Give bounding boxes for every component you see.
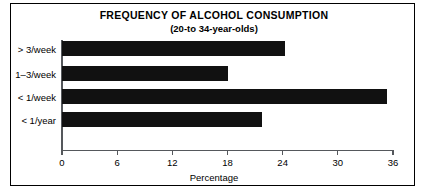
x-tick-label: 18 xyxy=(222,157,233,168)
bar-row: 1–3/week xyxy=(62,66,393,81)
x-tick xyxy=(117,150,118,155)
x-tick xyxy=(282,150,283,155)
bar xyxy=(62,66,228,81)
category-label: > 3/week xyxy=(18,43,56,54)
x-tick xyxy=(392,150,393,155)
category-label: 1–3/week xyxy=(15,68,56,79)
x-tick-label: 6 xyxy=(115,157,120,168)
x-tick xyxy=(337,150,338,155)
bar-row: > 3/week xyxy=(62,41,393,56)
bar-row: < 1/week xyxy=(62,89,393,104)
bar xyxy=(62,89,387,104)
x-tick xyxy=(61,150,62,155)
x-tick xyxy=(172,150,173,155)
x-axis-title: Percentage xyxy=(0,172,428,183)
plot-area: > 3/week1–3/week< 1/week< 1/year 0612182… xyxy=(62,36,393,150)
bar-row: < 1/year xyxy=(62,112,393,127)
category-label: < 1/year xyxy=(21,114,56,125)
x-tick-label: 0 xyxy=(59,157,64,168)
bar xyxy=(62,41,285,56)
x-tick-label: 24 xyxy=(277,157,288,168)
x-tick-label: 12 xyxy=(167,157,178,168)
chart-figure: FREQUENCY OF ALCOHOL CONSUMPTION (20-to … xyxy=(0,0,428,195)
x-tick xyxy=(227,150,228,155)
category-label: < 1/week xyxy=(18,91,56,102)
x-tick-label: 36 xyxy=(388,157,399,168)
bar xyxy=(62,112,262,127)
x-tick-label: 30 xyxy=(333,157,344,168)
